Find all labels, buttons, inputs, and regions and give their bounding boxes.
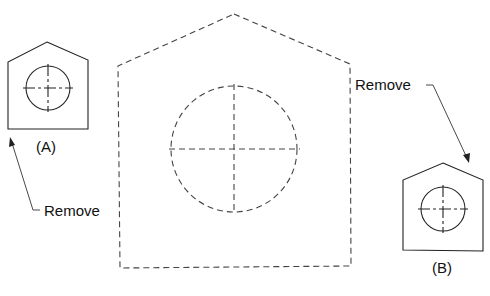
callout-right-text: Remove: [355, 76, 411, 93]
center-view: [118, 14, 351, 268]
view-b: [403, 163, 483, 251]
view-b-label: (B): [432, 259, 452, 276]
callout-right-leader: [426, 85, 467, 158]
diagram-canvas: (A) (B) Remove Remove: [0, 0, 490, 296]
arrowhead-left-icon: [9, 137, 15, 147]
dashed-pentagon-outline: [118, 14, 351, 268]
arrowhead-right-icon: [463, 153, 470, 163]
callout-left-text: Remove: [44, 202, 100, 219]
view-a: [8, 42, 88, 129]
view-a-label: (A): [36, 138, 56, 155]
